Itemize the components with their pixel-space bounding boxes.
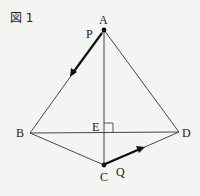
label-a: A (99, 13, 108, 27)
label-e: E (92, 120, 99, 134)
point-c-dot (102, 163, 107, 168)
label-b: B (16, 126, 24, 140)
arrow-q-shaft (105, 149, 140, 164)
label-d: D (182, 126, 191, 140)
segment-bc (30, 133, 104, 165)
label-q: Q (116, 165, 125, 179)
label-p: P (86, 27, 93, 41)
label-c: C (100, 170, 108, 184)
right-angle-marker (104, 123, 113, 132)
point-a-dot (102, 28, 107, 33)
segment-bd (30, 132, 179, 133)
figure-title: 図 1 (10, 11, 33, 25)
segment-ad (104, 30, 179, 132)
figure-canvas: 図 1 A P B E D C Q (0, 0, 200, 196)
